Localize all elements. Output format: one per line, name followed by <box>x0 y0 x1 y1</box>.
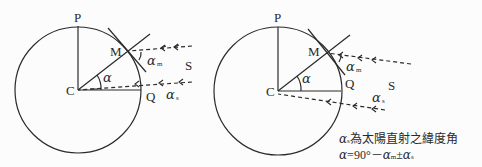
radius-to-m-line <box>78 34 150 90</box>
label-alpha: α <box>103 70 112 85</box>
alpha-angle-arc <box>297 76 301 91</box>
label-q: Q <box>146 89 156 104</box>
label-alpha-m-sub: m <box>157 60 163 68</box>
label-p: P <box>74 10 81 25</box>
label-s: S <box>388 78 395 93</box>
note1-alpha: α <box>339 132 347 146</box>
label-c: C <box>66 83 75 98</box>
ray-arrow-icon <box>327 99 376 112</box>
note-line-1: αs為太陽直射之緯度角 <box>339 131 458 146</box>
label-alpha-s: α <box>372 90 381 105</box>
note2-alpha-s: α <box>403 148 411 162</box>
alpha-angle-arc <box>97 75 101 90</box>
label-p: P <box>274 10 281 25</box>
label-alpha-s-sub: s <box>176 94 179 102</box>
label-alpha-m: α <box>147 53 156 68</box>
alpha-m-angle-arc <box>139 52 141 60</box>
label-s: S <box>185 58 192 73</box>
label-alpha-s-sub: s <box>382 97 385 105</box>
label-q: Q <box>345 76 355 91</box>
formula-notes: αs為太陽直射之緯度角 α=90°－αm±αs <box>339 131 458 162</box>
label-alpha-m-sub: m <box>356 66 362 74</box>
sun-ray-to-c <box>278 94 385 110</box>
note1-text: 為太陽直射之緯度角 <box>350 131 458 146</box>
note2-alpha-m: α <box>383 148 391 162</box>
label-alpha: α <box>302 71 311 86</box>
diagram-svg: P M C Q S α α m α s <box>0 0 482 167</box>
solar-angle-diagram: P M C Q S α α m α s <box>0 0 482 167</box>
label-c: C <box>266 84 275 99</box>
note2-s-sub: s <box>411 153 414 161</box>
label-m: M <box>110 44 122 59</box>
ray-arrow-icon <box>339 52 376 63</box>
note2-eq: =90°－ <box>347 148 383 162</box>
label-m: M <box>308 44 320 59</box>
sun-ray-to-m <box>129 46 192 51</box>
note-line-2: α=90°－αm±αs <box>339 148 414 162</box>
note2-alpha: α <box>339 148 347 162</box>
label-alpha-s: α <box>166 87 175 102</box>
label-alpha-m: α <box>346 59 355 74</box>
